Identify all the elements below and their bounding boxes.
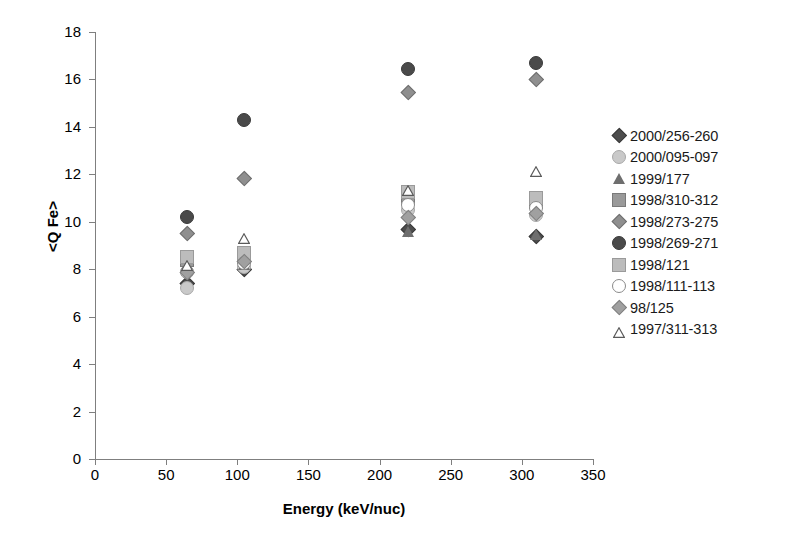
x-tick-label: 150 <box>278 466 338 483</box>
x-tick <box>522 459 523 465</box>
data-point-diamond <box>529 72 544 87</box>
legend-label: 1998/273-275 <box>630 214 718 230</box>
x-tick-label: 0 <box>65 466 125 483</box>
legend-item[interactable]: 1998/111-113 <box>608 276 783 298</box>
data-point-triangle-open <box>402 182 414 193</box>
y-tick-label: 14 <box>47 119 81 134</box>
legend-item[interactable]: 1998/269-271 <box>608 233 783 255</box>
x-tick <box>308 459 309 465</box>
chart-canvas: 024681012141618 050100150200250300350 En… <box>0 0 785 551</box>
legend-marker-icon <box>608 147 630 169</box>
y-tick-label: 4 <box>47 356 81 371</box>
data-point-triangle <box>613 173 625 184</box>
y-tick-label: 18 <box>47 24 81 39</box>
legend-label: 1998/121 <box>630 257 690 273</box>
legend-marker-icon <box>608 254 630 276</box>
x-tick <box>451 459 452 465</box>
legend-marker-icon <box>608 233 630 255</box>
legend-marker-icon <box>608 297 630 319</box>
data-point-triangle-open <box>530 163 542 174</box>
x-tick-label: 100 <box>207 466 267 483</box>
x-axis-title: Energy (keV/nuc) <box>95 500 593 517</box>
x-tick <box>166 459 167 465</box>
legend-item[interactable]: 98/125 <box>608 297 783 319</box>
data-point-triangle-open <box>181 257 193 268</box>
x-tick-label: 250 <box>421 466 481 483</box>
y-axis-title: <Q Fe> <box>44 167 61 287</box>
data-point-circle <box>401 62 415 76</box>
data-point-circle <box>180 281 194 295</box>
legend-marker-icon <box>608 319 630 341</box>
data-point-circle <box>612 236 626 250</box>
legend-marker-icon <box>608 276 630 298</box>
x-tick <box>95 459 96 465</box>
legend-item[interactable]: 2000/256-260 <box>608 125 783 147</box>
data-point-circle <box>529 56 543 70</box>
x-tick <box>237 459 238 465</box>
data-point-diamond <box>612 128 627 143</box>
data-point-diamond <box>237 170 252 185</box>
x-tick-label: 50 <box>136 466 196 483</box>
data-point-triangle-open <box>238 230 250 241</box>
legend-marker-icon <box>608 168 630 190</box>
y-tick-label: 6 <box>47 309 81 324</box>
data-point-diamond <box>612 214 627 229</box>
legend-marker-icon <box>608 211 630 233</box>
legend-marker-icon <box>608 125 630 147</box>
data-point-circle <box>237 113 251 127</box>
data-point-triangle-open <box>613 324 625 335</box>
data-point-triangle <box>402 226 414 237</box>
y-tick-label: 0 <box>47 451 81 466</box>
legend-item[interactable]: 1998/121 <box>608 254 783 276</box>
legend-label: 1997/311-313 <box>630 321 717 337</box>
data-point-square <box>612 193 626 207</box>
x-tick <box>593 459 594 465</box>
data-point-diamond <box>180 226 195 241</box>
legend-item[interactable]: 1997/311-313 <box>608 319 783 341</box>
legend-item[interactable]: 1998/273-275 <box>608 211 783 233</box>
data-point-square <box>612 258 626 272</box>
legend-label: 1998/310-312 <box>630 192 718 208</box>
x-tick-label: 300 <box>492 466 552 483</box>
data-point-circle <box>180 210 194 224</box>
x-tick <box>380 459 381 465</box>
legend-label: 1999/177 <box>630 171 690 187</box>
x-tick-label: 200 <box>350 466 410 483</box>
legend: 2000/256-2602000/095-0971999/1771998/310… <box>608 125 783 340</box>
data-point-diamond <box>401 85 416 100</box>
legend-label: 2000/095-097 <box>630 149 718 165</box>
legend-label: 2000/256-260 <box>630 128 718 144</box>
data-point-circle <box>612 150 626 164</box>
legend-item[interactable]: 1998/310-312 <box>608 190 783 212</box>
y-tick-label: 2 <box>47 404 81 419</box>
data-point-diamond <box>612 300 627 315</box>
legend-item[interactable]: 1999/177 <box>608 168 783 190</box>
x-tick-label: 350 <box>563 466 623 483</box>
legend-label: 1998/111-113 <box>630 278 715 294</box>
legend-item[interactable]: 2000/095-097 <box>608 147 783 169</box>
legend-marker-icon <box>608 190 630 212</box>
data-point-circle-open <box>612 279 626 293</box>
data-point-triangle <box>530 229 542 240</box>
legend-label: 1998/269-271 <box>630 235 718 251</box>
x-axis-line <box>95 459 593 460</box>
y-tick-label: 16 <box>47 71 81 86</box>
plot-area <box>95 32 593 459</box>
legend-label: 98/125 <box>630 300 674 316</box>
